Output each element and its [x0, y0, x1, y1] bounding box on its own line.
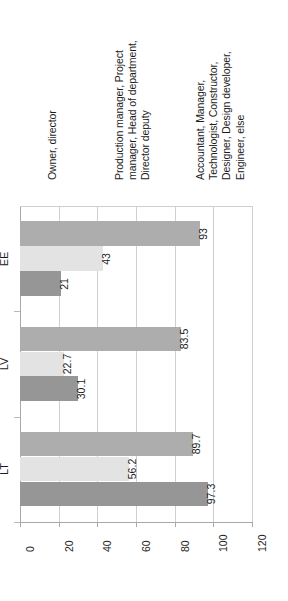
bar-value-label: 83.5 [178, 329, 190, 349]
category-label: LV [0, 358, 10, 371]
bar [20, 221, 200, 245]
gridline [252, 206, 253, 522]
value-tick-label: 60 [140, 540, 152, 552]
value-tick-mark [252, 522, 253, 527]
value-tick-label: 80 [179, 540, 191, 552]
bar-value-label: 93 [197, 228, 209, 240]
category-label: LT [0, 463, 10, 475]
bar [20, 457, 129, 481]
bar [20, 482, 208, 506]
value-tick-label: 20 [63, 540, 75, 552]
category-separator-tick [14, 417, 20, 418]
chart-figure: Owner, director Production manager, Proj… [0, 0, 288, 601]
bar [20, 271, 61, 295]
bar [20, 376, 78, 400]
value-tick-label: 100 [217, 534, 229, 552]
bar-value-label: 56.2 [126, 459, 138, 479]
chart-plot-area: 020406080100120934321EE83.522.730.1LV89.… [0, 0, 288, 601]
plot-top-border [20, 206, 252, 207]
bar-value-label: 30.1 [75, 379, 87, 399]
bar-value-label: 21 [58, 278, 70, 290]
bar [20, 246, 103, 270]
gridline [213, 206, 214, 522]
bar-value-label: 97.3 [205, 484, 217, 504]
category-label: EE [0, 251, 10, 266]
bar [20, 352, 64, 376]
category-axis-line [20, 522, 252, 523]
gridline [175, 206, 176, 522]
bar-value-label: 89.7 [190, 434, 202, 454]
bar-value-label: 22.7 [61, 354, 73, 374]
category-separator-tick [14, 311, 20, 312]
bar [20, 432, 193, 456]
bar-value-label: 43 [100, 253, 112, 265]
value-tick-label: 120 [256, 534, 268, 552]
bar [20, 327, 181, 351]
value-tick-label: 0 [24, 546, 36, 552]
category-separator-tick [14, 522, 20, 523]
value-tick-label: 40 [101, 540, 113, 552]
